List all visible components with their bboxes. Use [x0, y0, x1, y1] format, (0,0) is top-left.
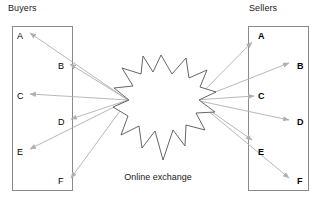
edge-hub-buyer-a [30, 33, 128, 100]
seller-c-label: C [258, 91, 265, 101]
buyer-a-label: A [17, 31, 23, 41]
sellers-box [249, 27, 309, 191]
buyer-e-label: E [17, 147, 23, 157]
diagram-canvas [0, 0, 316, 197]
edge-hub-buyer-f [71, 100, 128, 178]
buyers-header: Buyers [8, 3, 37, 13]
sellers-header: Sellers [249, 3, 277, 13]
buyers-box [13, 27, 73, 191]
seller-b-label: B [297, 61, 304, 71]
online-exchange-burst-icon [113, 55, 216, 160]
diagram-caption: Online exchange [0, 172, 316, 182]
seller-a-label: A [258, 31, 265, 41]
buyer-b-label: B [58, 61, 64, 71]
buyer-d-label: D [58, 117, 65, 127]
buyer-c-label: C [17, 91, 24, 101]
seller-d-label: D [297, 117, 304, 127]
edge-hub-buyer-c [30, 94, 128, 100]
seller-e-label: E [258, 147, 264, 157]
edge-hub-buyer-b [70, 64, 128, 100]
